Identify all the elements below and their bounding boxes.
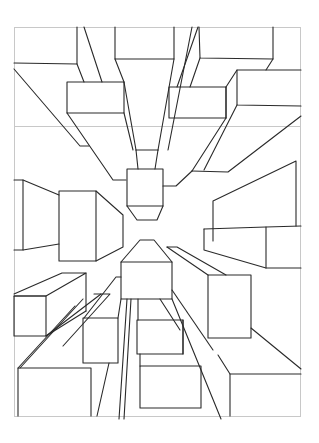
page-border [15,28,301,127]
perspective-buildings-drawing [0,0,319,443]
